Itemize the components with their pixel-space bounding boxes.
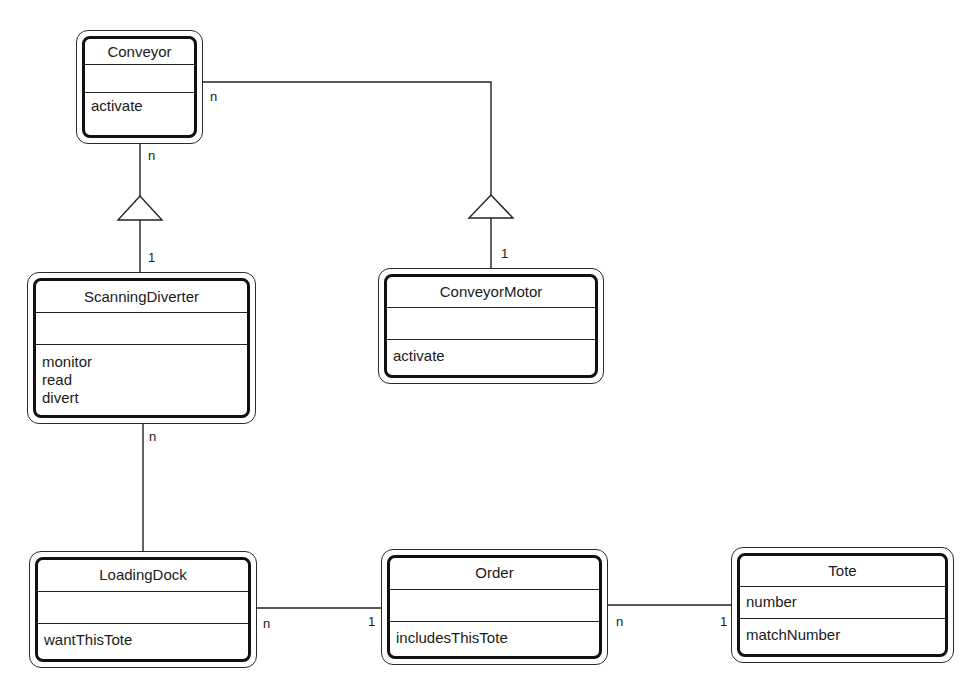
- class-loading-dock[interactable]: LoadingDock wantThisTote: [29, 551, 257, 668]
- class-operations: monitor read divert: [36, 345, 247, 415]
- operation: matchNumber: [746, 626, 939, 644]
- attribute: number: [746, 593, 939, 611]
- multiplicity-tote-left: 1: [720, 615, 727, 629]
- class-attributes: [387, 308, 595, 340]
- operation: divert: [42, 389, 241, 407]
- multiplicity-motor-top: 1: [501, 247, 508, 261]
- class-name: ScanningDiverter: [36, 281, 247, 313]
- class-name: Tote: [740, 556, 945, 587]
- class-conveyor-motor[interactable]: ConveyorMotor activate: [378, 268, 604, 384]
- class-conveyor[interactable]: Conveyor activate: [76, 30, 203, 144]
- class-name: Order: [390, 558, 599, 590]
- class-name: ConveyorMotor: [387, 277, 595, 308]
- operation: wantThisTote: [44, 631, 242, 649]
- multiplicity-conveyor-down: n: [148, 149, 155, 163]
- multiplicity-conveyor-right: n: [210, 90, 217, 104]
- class-operations: includesThisTote: [390, 622, 599, 656]
- class-operations: activate: [387, 340, 595, 375]
- class-attributes: [85, 65, 194, 93]
- multiplicity-dock-right: n: [263, 617, 270, 631]
- multiplicity-diverter-top: 1: [148, 251, 155, 265]
- class-operations: activate: [85, 93, 194, 135]
- operation: activate: [393, 347, 589, 365]
- generalization-triangle-left: [118, 196, 162, 220]
- class-attributes: number: [740, 587, 945, 619]
- multiplicity-order-right: n: [616, 615, 623, 629]
- class-scanning-diverter[interactable]: ScanningDiverter monitor read divert: [27, 272, 256, 424]
- class-order[interactable]: Order includesThisTote: [381, 549, 608, 665]
- operation: includesThisTote: [396, 629, 593, 647]
- conveyor-to-motor-line-upper: [202, 82, 491, 195]
- class-operations: matchNumber: [740, 619, 945, 654]
- class-operations: wantThisTote: [38, 624, 248, 659]
- generalization-triangle-right: [469, 195, 513, 218]
- multiplicity-order-left: 1: [368, 615, 375, 629]
- multiplicity-diverter-bottom: n: [149, 430, 156, 444]
- class-name: LoadingDock: [38, 560, 248, 592]
- class-tote[interactable]: Tote number matchNumber: [731, 547, 954, 663]
- operation: read: [42, 371, 241, 389]
- class-attributes: [38, 592, 248, 624]
- operation: monitor: [42, 353, 241, 371]
- class-diagram: Conveyor activate ScanningDiverter monit…: [0, 0, 975, 694]
- class-name: Conveyor: [85, 39, 194, 65]
- class-attributes: [390, 590, 599, 622]
- class-attributes: [36, 313, 247, 345]
- operation: activate: [91, 97, 188, 115]
